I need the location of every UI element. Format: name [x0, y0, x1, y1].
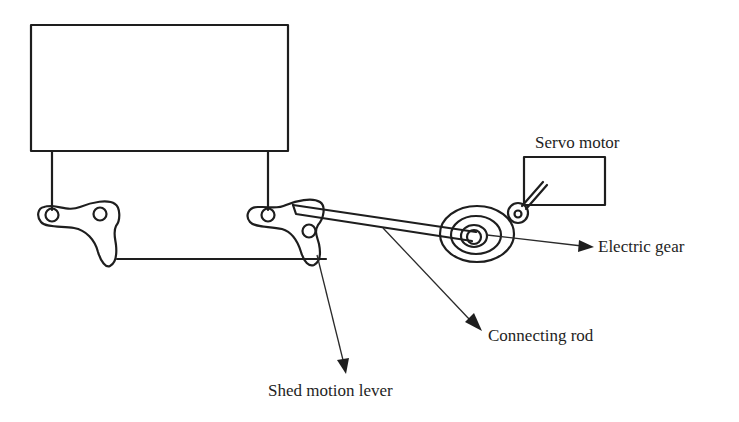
- connecting-rod-leader: [383, 228, 482, 331]
- servo-motor-label: Servo motor: [535, 134, 620, 151]
- right-lever-hole: [303, 225, 316, 238]
- right-shed-lever: [248, 200, 324, 266]
- left-lever-hole: [94, 208, 107, 221]
- electric-gear: [440, 206, 514, 262]
- shed-motion-lever-label: Shed motion lever: [268, 382, 393, 399]
- electric-gear-label: Electric gear: [598, 238, 684, 255]
- left-shed-lever: [38, 201, 119, 266]
- electric-gear-leader: [487, 235, 594, 252]
- heald-frame-box: [31, 25, 288, 151]
- shed-motion-lever-leader: [317, 255, 349, 374]
- shedding-mechanism-diagram: [0, 0, 739, 422]
- connecting-rod-label: Connecting rod: [488, 327, 593, 344]
